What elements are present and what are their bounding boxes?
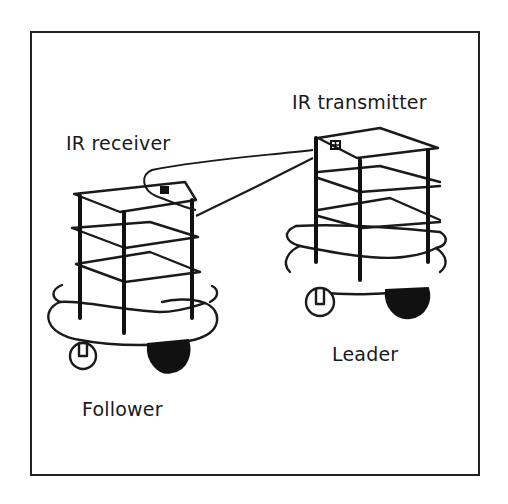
- leader-robot: [286, 128, 446, 318]
- leader-label: Leader: [332, 343, 398, 365]
- diagram-canvas: IR receiver IR transmitter Follower Lead…: [0, 0, 508, 504]
- ir-receiver-icon: [160, 186, 169, 194]
- drive-wheel-icon: [148, 340, 190, 373]
- follower-robot: [48, 182, 217, 373]
- drive-wheel-icon: [386, 288, 429, 318]
- follower-label: Follower: [82, 398, 163, 420]
- robots-illustration: [0, 0, 508, 504]
- ir-receiver-label: IR receiver: [66, 132, 170, 154]
- ir-transmitter-label: IR transmitter: [292, 91, 427, 113]
- caster-wheel-icon: [306, 288, 334, 316]
- ir-link-lower: [196, 158, 313, 216]
